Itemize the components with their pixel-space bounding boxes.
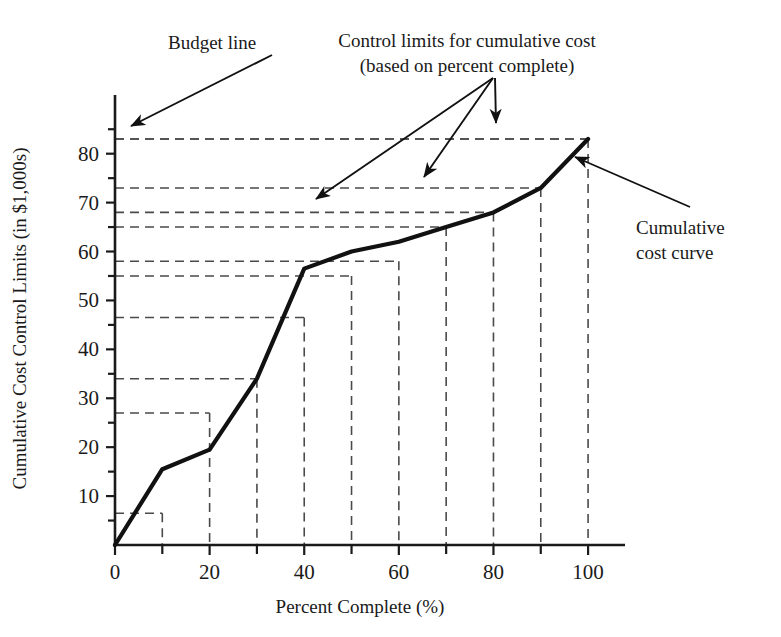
x-axis-ticks <box>115 545 588 555</box>
y-tick-label: 40 <box>78 337 99 361</box>
x-axis-tick-labels: 020406080100 <box>110 560 604 584</box>
x-tick-label: 40 <box>294 560 315 584</box>
control-limit-arrow-3 <box>495 78 496 123</box>
cumulative-cost-control-chart: 1020304050607080 020406080100 <box>0 0 781 637</box>
y-tick-label: 70 <box>78 191 99 215</box>
cumulative-cost-curve-annotation-line2: cost curve <box>636 240 771 265</box>
x-tick-label: 80 <box>483 560 504 584</box>
x-tick-label: 0 <box>110 560 121 584</box>
y-tick-label: 80 <box>78 142 99 166</box>
y-tick-label: 20 <box>78 435 99 459</box>
y-axis-title: Cumulative Cost Control Limits (in $1,00… <box>0 0 40 637</box>
y-tick-label: 60 <box>78 240 99 264</box>
y-tick-label: 30 <box>78 386 99 410</box>
x-tick-label: 60 <box>388 560 409 584</box>
y-axis-ticks <box>106 129 115 520</box>
control-limits-annotation-label: Control limits for cumulative cost (base… <box>321 28 613 78</box>
cumulative-cost-curve-annotation-label: Cumulative cost curve <box>636 215 771 265</box>
control-limits-annotation-line1: Control limits for cumulative cost <box>338 30 596 51</box>
x-tick-label: 20 <box>199 560 220 584</box>
cumulative-cost-curve-annotation-line1: Cumulative <box>636 217 725 238</box>
y-axis-tick-labels: 1020304050607080 <box>78 142 99 508</box>
plot-area <box>115 95 607 545</box>
y-tick-label: 10 <box>78 484 99 508</box>
budget-line-annotation-label: Budget line <box>168 30 256 55</box>
chart-figure: 1020304050607080 020406080100 Budget lin… <box>0 0 781 637</box>
y-tick-label: 50 <box>78 288 99 312</box>
x-axis-title: Percent Complete (%) <box>115 596 605 618</box>
x-tick-label: 100 <box>572 560 604 584</box>
control-limits-annotation-line2: (based on percent complete) <box>321 53 613 78</box>
